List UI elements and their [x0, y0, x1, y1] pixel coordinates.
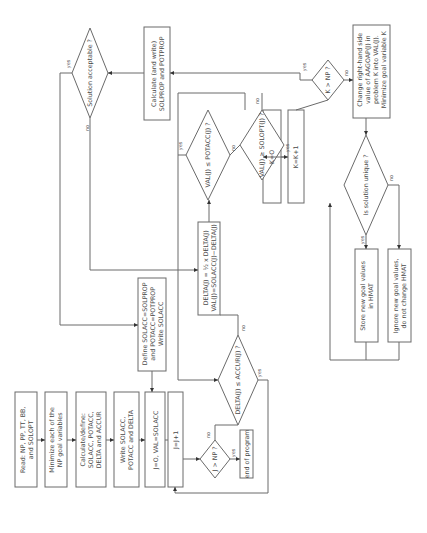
label-write-solacc: Write SOLACC, POTACC and DELTA — [119, 392, 135, 487]
edge-label-unique-yes: yes — [359, 236, 365, 245]
label-calculate-define: Calculate/define: SOLACC, POTACC, DELTA … — [79, 392, 103, 487]
label-k-gt-np: K > NP ? — [324, 60, 332, 100]
label-solution-acceptable: Solution acceptable ? — [86, 33, 94, 113]
label-val-leq-potacc: VAL(J) ≤ POTACC(J) ? — [204, 115, 212, 195]
edge-label-accept-no: no — [84, 125, 90, 131]
edge-label-accept-yes: yes — [65, 60, 71, 69]
edge-label-delta-no: no — [240, 325, 246, 331]
label-delta-update: DELTA(J) = ½ x DELTA(J) VAL(J)=SOLACC(J)… — [202, 220, 218, 315]
label-define-solprop: Define SOLACC=SOLPROP and POTACC=POTPROP… — [141, 276, 165, 371]
label-end-program: end of program — [243, 429, 251, 479]
edge-label-potacc-yes: yes — [177, 142, 183, 151]
label-read: Read: NP, PP, TT, BB, and SOLOPT — [19, 392, 35, 487]
label-k-zero: K=O — [268, 132, 276, 182]
edge-label-jnp-yes: yes — [230, 449, 236, 458]
label-val-geq-solopt: VAL(J) ≥ SOLOPT(J) ? — [258, 105, 266, 185]
label-j-gt-np: J > NP ? — [211, 434, 219, 484]
edge-label-unique-no: no — [388, 175, 394, 181]
label-change-rhs: Change right-hand side value of AAGOAP(J… — [356, 22, 387, 117]
edge-label-potacc-no: no — [230, 145, 236, 151]
label-delta-leq-accur: DELTA(J) ≤ ACCUR(J) ? — [234, 340, 242, 420]
label-minimize: Minimize each of the NP goal variables — [48, 392, 64, 487]
label-j-increment: J=J+1 — [172, 392, 180, 487]
edge-label-knp-no: no — [343, 70, 349, 76]
edge-label-jnp-no: no — [205, 432, 211, 438]
edge-label-knp-yes: yes — [301, 63, 307, 72]
label-calculate-write: Calculate (and write) SOLPROP and POTPRO… — [150, 26, 166, 121]
label-init-j: J=O, VAL=SOLACC — [152, 392, 160, 487]
edge-label-solopt-no: no — [254, 98, 260, 104]
label-k-increment: K=K+1 — [292, 132, 300, 182]
label-store-goal: Store new goal values in HMAT — [359, 248, 375, 343]
label-solution-unique: Is solution unique ? — [362, 145, 370, 225]
edge-label-solopt-yes: yes — [284, 144, 290, 153]
label-ignore-goal: Ignore new goal values, do not change HM… — [392, 248, 408, 343]
edge-label-delta-yes: yes — [256, 369, 262, 378]
